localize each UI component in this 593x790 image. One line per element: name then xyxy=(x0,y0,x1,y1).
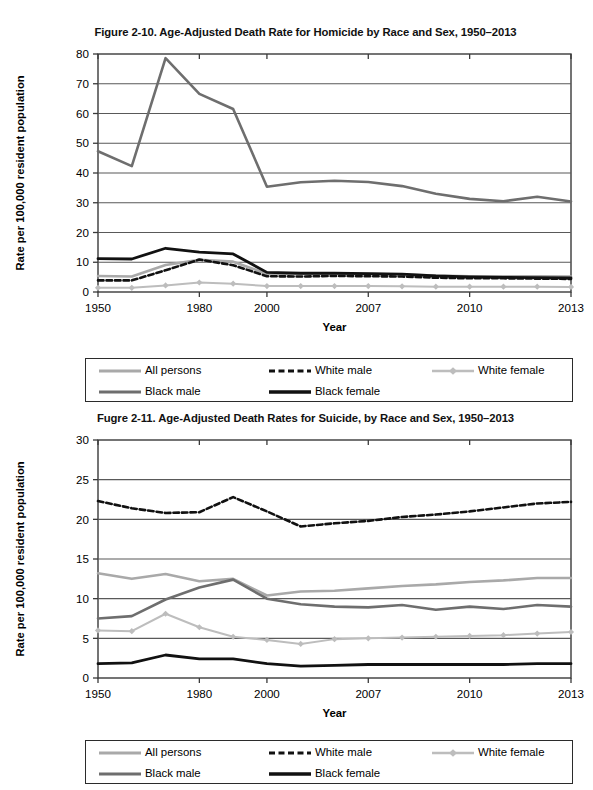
y-tick-label: 0 xyxy=(83,285,89,298)
figure-homicide: Figure 2-10. Age-Adjusted Death Rate for… xyxy=(0,24,593,362)
x-tick-label: 1950 xyxy=(85,687,111,700)
figure-2-title: Fugre 2-11. Age-Adjusted Death Rates for… xyxy=(0,410,593,428)
legend-swatch-black-male xyxy=(98,386,142,398)
figure-1-title: Figure 2-10. Age-Adjusted Death Rate for… xyxy=(0,24,593,42)
y-tick-label: 25 xyxy=(76,473,89,486)
legend-item-white-female[interactable]: White female xyxy=(431,360,586,381)
x-tick-label: 2000 xyxy=(254,301,280,314)
legend-label-white-female: White female xyxy=(478,746,544,759)
y-axis-title: Rate per 100,000 resident population xyxy=(14,461,26,656)
y-tick-label: 0 xyxy=(83,671,89,684)
y-tick-label: 20 xyxy=(76,226,89,239)
legend-label-white-male: White male xyxy=(315,746,372,759)
y-tick-label: 70 xyxy=(76,77,89,90)
x-tick-label: 1950 xyxy=(85,301,111,314)
legend-item-all-persons[interactable]: All persons xyxy=(98,742,268,763)
y-tick-label: 10 xyxy=(76,255,89,268)
x-tick-label: 2000 xyxy=(254,687,280,700)
legend-item-white-male[interactable]: White male xyxy=(268,360,431,381)
x-tick-label: 2013 xyxy=(558,301,584,314)
y-tick-label: 50 xyxy=(76,136,89,149)
legend-item-black-female[interactable]: Black female xyxy=(268,763,431,784)
legend-label-black-male: Black male xyxy=(145,385,201,398)
x-axis-title: Year xyxy=(322,707,347,719)
legend-swatch-all-persons xyxy=(98,747,142,759)
legend-swatch-black-female xyxy=(268,768,312,780)
legend-item-black-male[interactable]: Black male xyxy=(98,381,268,402)
y-tick-label: 80 xyxy=(76,47,89,60)
y-tick-label: 30 xyxy=(76,433,89,446)
y-tick-label: 30 xyxy=(76,196,89,209)
x-tick-label: 2007 xyxy=(355,687,381,700)
figure-1-legend: All persons White male White female Blac… xyxy=(85,358,573,402)
legend-item-all-persons[interactable]: All persons xyxy=(98,360,268,381)
legend-grid: All persons White male White female Blac… xyxy=(86,741,572,783)
legend-label-all-persons: All persons xyxy=(145,746,201,759)
y-tick-label: 60 xyxy=(76,107,89,120)
legend-swatch-white-male xyxy=(268,365,312,377)
y-tick-label: 40 xyxy=(76,166,89,179)
y-axis-title: Rate per 100,000 resident population xyxy=(14,75,26,270)
figure-suicide: Fugre 2-11. Age-Adjusted Death Rates for… xyxy=(0,410,593,748)
x-tick-label: 2013 xyxy=(558,687,584,700)
legend-item-white-male[interactable]: White male xyxy=(268,742,431,763)
legend-swatch-black-male xyxy=(98,768,142,780)
legend-label-black-female: Black female xyxy=(315,385,380,398)
y-tick-label: 20 xyxy=(76,513,89,526)
legend-label-white-female: White female xyxy=(478,364,544,377)
legend-item-white-female[interactable]: White female xyxy=(431,742,586,763)
figure-2-legend: All persons White male White female Blac… xyxy=(85,740,573,784)
legend-item-black-male[interactable]: Black male xyxy=(98,763,268,784)
legend-swatch-white-male xyxy=(268,747,312,759)
x-tick-label: 2007 xyxy=(355,301,381,314)
figure-1-chart-area: 0102030405060708019501980200020072010201… xyxy=(0,42,593,362)
legend-label-all-persons: All persons xyxy=(145,364,201,377)
x-tick-label: 1980 xyxy=(186,301,212,314)
legend-swatch-all-persons xyxy=(98,365,142,377)
legend-label-white-male: White male xyxy=(315,364,372,377)
legend-spacer xyxy=(431,381,586,402)
figure-2-chart-area: 051015202530195019802000200720102013Year… xyxy=(0,428,593,748)
x-tick-label: 1980 xyxy=(186,687,212,700)
x-tick-label: 2010 xyxy=(457,301,483,314)
suicide-line-chart: 051015202530195019802000200720102013Year… xyxy=(0,428,593,748)
legend-grid: All persons White male White female Blac… xyxy=(86,359,572,401)
legend-item-black-female[interactable]: Black female xyxy=(268,381,431,402)
legend-spacer xyxy=(431,763,586,784)
y-tick-label: 5 xyxy=(83,632,89,645)
x-tick-label: 2010 xyxy=(457,687,483,700)
legend-label-black-male: Black male xyxy=(145,767,201,780)
y-tick-label: 10 xyxy=(76,592,89,605)
legend-label-black-female: Black female xyxy=(315,767,380,780)
homicide-line-chart: 0102030405060708019501980200020072010201… xyxy=(0,42,593,362)
legend-swatch-white-female xyxy=(431,365,475,377)
legend-swatch-white-female xyxy=(431,747,475,759)
legend-swatch-black-female xyxy=(268,386,312,398)
page-root: Figure 2-10. Age-Adjusted Death Rate for… xyxy=(0,0,593,790)
x-axis-title: Year xyxy=(322,321,347,333)
y-tick-label: 15 xyxy=(76,552,89,565)
